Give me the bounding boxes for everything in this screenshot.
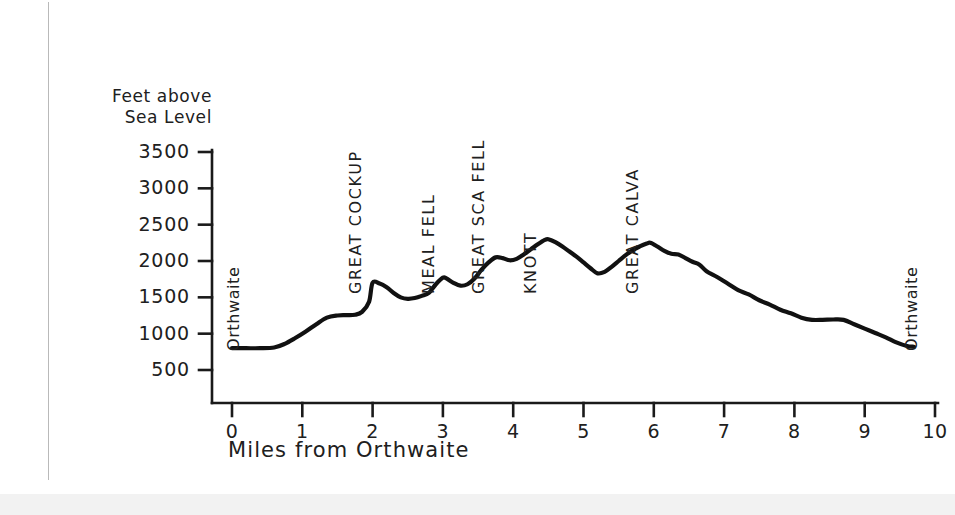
x-axis-tick-label: 4 bbox=[493, 420, 533, 442]
x-axis-tick-label: 10 bbox=[915, 420, 955, 442]
peak-label-great-sca-fell: GREAT SCA FELL bbox=[469, 139, 488, 294]
y-axis-title: Feet above Sea Level bbox=[62, 86, 212, 128]
elevation-profile-line bbox=[232, 239, 914, 348]
x-axis-tick-label: 6 bbox=[634, 420, 674, 442]
y-axis-tick-label: 1000 bbox=[98, 322, 190, 344]
peak-label-knott: KNOTT bbox=[521, 232, 540, 294]
y-axis-ticks bbox=[199, 152, 212, 370]
x-axis-title: Miles from Orthwaite bbox=[228, 438, 470, 462]
x-axis-ticks bbox=[232, 403, 935, 416]
peak-label-great-cockup: GREAT COCKUP bbox=[346, 150, 365, 294]
y-axis-tick-label: 2500 bbox=[98, 213, 190, 235]
elevation-profile-figure: Feet above Sea Level 3500300025002000150… bbox=[0, 0, 955, 515]
y-axis-tick-label: 2000 bbox=[98, 249, 190, 271]
y-axis-tick-label: 3500 bbox=[98, 140, 190, 162]
x-axis-tick-label: 9 bbox=[845, 420, 885, 442]
x-axis-tick-label: 7 bbox=[704, 420, 744, 442]
start-point-label: Orthwaite bbox=[224, 267, 243, 351]
x-axis-tick-label: 5 bbox=[564, 420, 604, 442]
y-axis-tick-label: 3000 bbox=[98, 176, 190, 198]
y-axis-title-line-1: Feet above bbox=[62, 86, 212, 107]
y-axis-title-line-2: Sea Level bbox=[62, 107, 212, 128]
chart-axes bbox=[212, 150, 938, 403]
y-axis-tick-label: 500 bbox=[98, 358, 190, 380]
x-axis-tick-label: 8 bbox=[774, 420, 814, 442]
y-axis-tick-label: 1500 bbox=[98, 285, 190, 307]
peak-label-great-calva: GREAT CALVA bbox=[623, 168, 642, 294]
end-point-label: Orthwaite bbox=[902, 267, 921, 351]
peak-label-meal-fell: MEAL FELL bbox=[419, 194, 438, 294]
